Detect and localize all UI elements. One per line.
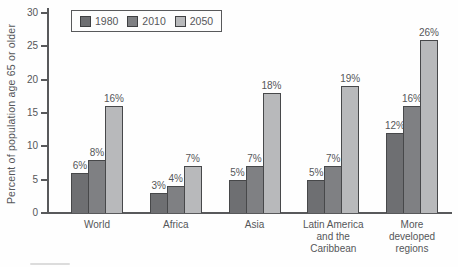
y-tick-label: 10 bbox=[12, 140, 38, 151]
bar-1980 bbox=[229, 180, 247, 213]
bar-value-label: 19% bbox=[330, 73, 370, 84]
y-tick bbox=[41, 45, 47, 47]
bar-2050 bbox=[263, 93, 281, 213]
y-tick bbox=[41, 212, 47, 214]
bar-group: 5%7%19% bbox=[307, 13, 359, 213]
bar-chart: Percent of population age 65 or older 05… bbox=[0, 0, 458, 267]
y-tick-label: 30 bbox=[12, 7, 38, 18]
bar-2010 bbox=[324, 166, 342, 213]
bar-group: 5%7%18% bbox=[229, 13, 281, 213]
y-tick bbox=[41, 79, 47, 81]
y-tick-label: 20 bbox=[12, 74, 38, 85]
y-tick bbox=[41, 112, 47, 114]
bar-2050 bbox=[184, 166, 202, 213]
bar-value-label: 26% bbox=[409, 27, 449, 38]
y-tick bbox=[41, 12, 47, 14]
bar-group: 3%4%7% bbox=[150, 13, 202, 213]
bar-2010 bbox=[246, 166, 264, 213]
x-axis-category-label: World bbox=[66, 219, 128, 231]
bar-2050 bbox=[105, 106, 123, 213]
bar-value-label: 7% bbox=[173, 153, 213, 164]
bar-1980 bbox=[386, 133, 404, 213]
bar-group: 6%8%16% bbox=[71, 13, 123, 213]
bar-1980 bbox=[150, 193, 168, 213]
y-tick bbox=[41, 179, 47, 181]
legend-swatch-2010 bbox=[127, 16, 138, 27]
y-tick-label: 25 bbox=[12, 40, 38, 51]
scan-artifact bbox=[30, 263, 70, 265]
bar-2010 bbox=[167, 186, 185, 213]
x-axis-category-label: More developed regions bbox=[381, 219, 443, 254]
y-axis-line bbox=[47, 8, 49, 214]
bar-2010 bbox=[403, 106, 421, 213]
bar-value-label: 18% bbox=[252, 80, 292, 91]
bar-1980 bbox=[307, 180, 325, 213]
x-axis-category-label: Latin America and the Caribbean bbox=[302, 219, 364, 254]
y-tick-label: 15 bbox=[12, 107, 38, 118]
y-tick-label: 5 bbox=[12, 174, 38, 185]
y-tick bbox=[41, 145, 47, 147]
bar-2050 bbox=[420, 40, 438, 213]
x-axis-category-label: Africa bbox=[145, 219, 207, 231]
bar-value-label: 16% bbox=[94, 93, 134, 104]
x-axis-category-label: Asia bbox=[224, 219, 286, 231]
bar-2050 bbox=[341, 86, 359, 213]
y-tick-label: 0 bbox=[12, 207, 38, 218]
bar-1980 bbox=[71, 173, 89, 213]
bar-group: 12%16%26% bbox=[386, 13, 438, 213]
bar-2010 bbox=[88, 160, 106, 213]
